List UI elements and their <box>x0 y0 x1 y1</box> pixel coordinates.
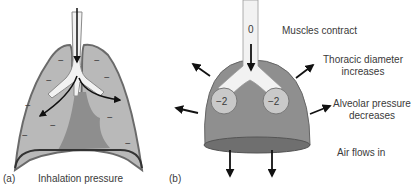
pleural-sign: − <box>25 100 31 112</box>
expand-arrow-right <box>310 106 330 114</box>
pleural-sign: − <box>22 130 28 142</box>
expand-arrow-left <box>176 108 198 113</box>
annotation-alveolar-line1: Alveolar pressure <box>333 98 411 110</box>
annotation-muscles: Muscles contract <box>282 25 357 37</box>
expand-arrow-upper-right <box>296 65 313 78</box>
dome-base <box>204 137 310 153</box>
pleural-sign: − <box>107 112 113 124</box>
annotation-alveolar: Alveolar pressure decreases <box>333 98 411 122</box>
annotation-thoracic-line1: Thoracic diameter <box>318 54 408 66</box>
lungs-figure <box>15 8 142 170</box>
pleural-sign: − <box>46 75 52 87</box>
airway-pressure-value: 0 <box>248 24 254 36</box>
pleural-sign: − <box>104 72 110 84</box>
expand-arrow-upper-left <box>193 64 210 76</box>
pleural-sign: − <box>94 55 100 67</box>
panel-a-label: (a) <box>3 173 15 185</box>
pleural-sign: − <box>125 138 131 150</box>
annotation-thoracic-line2: increases <box>318 66 408 78</box>
annotation-air: Air flows in <box>337 147 385 159</box>
pleural-sign: − <box>58 55 64 67</box>
pleural-sign: − <box>50 120 56 132</box>
panel-a-caption: Inhalation pressure <box>38 173 123 185</box>
alveolus-right-pressure: −2 <box>268 96 279 108</box>
alveolus-left-pressure: −2 <box>216 96 227 108</box>
panel-b-label: (b) <box>169 173 181 185</box>
annotation-thoracic: Thoracic diameter increases <box>318 54 408 78</box>
annotation-alveolar-line2: decreases <box>333 110 411 122</box>
